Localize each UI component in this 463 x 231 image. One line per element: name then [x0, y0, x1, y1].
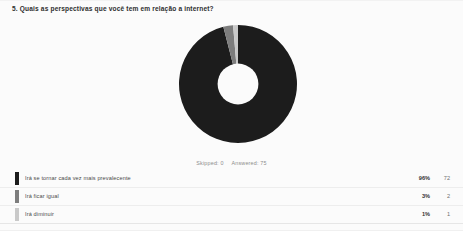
page-title: 5. Quais as perspectivas que você tem em…: [12, 5, 214, 12]
scan-edge-top: [0, 0, 463, 1]
legend-percent-value: 1%: [422, 211, 430, 217]
table-row: Irá diminuir1%1: [0, 206, 463, 224]
legend-answer-label: Irá ficar igual: [25, 193, 59, 199]
legend-percent-value: 96%: [419, 175, 430, 181]
table-row: Irá se tornar cada vez mais prevalecente…: [0, 170, 463, 188]
legend-answer-label: Irá se tornar cada vez mais prevalecente: [25, 175, 131, 181]
legend-response-count: 72: [436, 175, 450, 181]
scan-edge-bottom: [0, 230, 463, 231]
legend-response-count: 1: [436, 211, 450, 217]
legend-percent-value: 3%: [422, 193, 430, 199]
legend-color-swatch: [15, 190, 19, 203]
legend-color-swatch: [15, 172, 19, 185]
legend-response-count: 2: [436, 193, 450, 199]
legend-answer-label: Irá diminuir: [25, 211, 54, 217]
survey-question-card: 5. Quais as perspectivas que você tem em…: [0, 0, 463, 231]
donut-chart-svg: [178, 24, 298, 144]
donut-chart: [0, 18, 463, 158]
donut-hole: [218, 64, 259, 105]
table-row: Irá ficar igual3%2: [0, 188, 463, 206]
legend-color-swatch: [15, 208, 19, 221]
legend-table: Irá se tornar cada vez mais prevalecente…: [0, 170, 463, 224]
chart-meta: Skipped: 0 Answered: 75: [0, 160, 463, 166]
skipped-count: Skipped: 0: [196, 160, 223, 166]
answered-count: Answered: 75: [231, 160, 266, 166]
